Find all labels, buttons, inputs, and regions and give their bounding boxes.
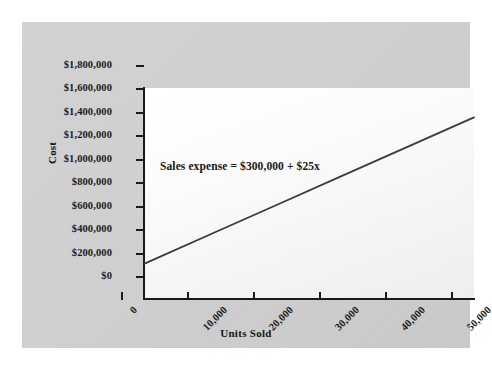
x-axis-tick: [253, 292, 255, 300]
x-axis-line: [143, 298, 475, 300]
y-axis-tick: [136, 206, 144, 208]
x-axis-tick: [451, 292, 453, 300]
y-axis-tick: [136, 112, 144, 114]
y-axis-line: [143, 87, 145, 300]
x-axis-tick: [187, 292, 189, 300]
y-axis-tick: [136, 253, 144, 255]
figure-panel: $0$200,000$400,000$600,000$800,000$1,000…: [22, 22, 470, 348]
y-axis-tick: [136, 229, 144, 231]
y-axis-title: Cost: [46, 142, 58, 164]
x-axis-tick: [385, 292, 387, 300]
y-axis-tick: [136, 182, 144, 184]
chart-screenshot: $0$200,000$400,000$600,000$800,000$1,000…: [0, 0, 492, 370]
x-axis-tick: [121, 292, 123, 300]
x-axis-tick: [319, 292, 321, 300]
y-axis-tick: [136, 88, 144, 90]
x-axis-title: Units Sold: [0, 327, 492, 339]
y-axis-tick: [136, 65, 144, 67]
y-axis-tick: [136, 159, 144, 161]
equation-annotation: Sales expense = $300,000 + $25x: [160, 160, 320, 172]
y-axis-tick: [136, 276, 144, 278]
y-axis-tick: [136, 135, 144, 137]
plot-area: [144, 88, 474, 299]
x-axis-tick-label: 0: [128, 304, 140, 316]
